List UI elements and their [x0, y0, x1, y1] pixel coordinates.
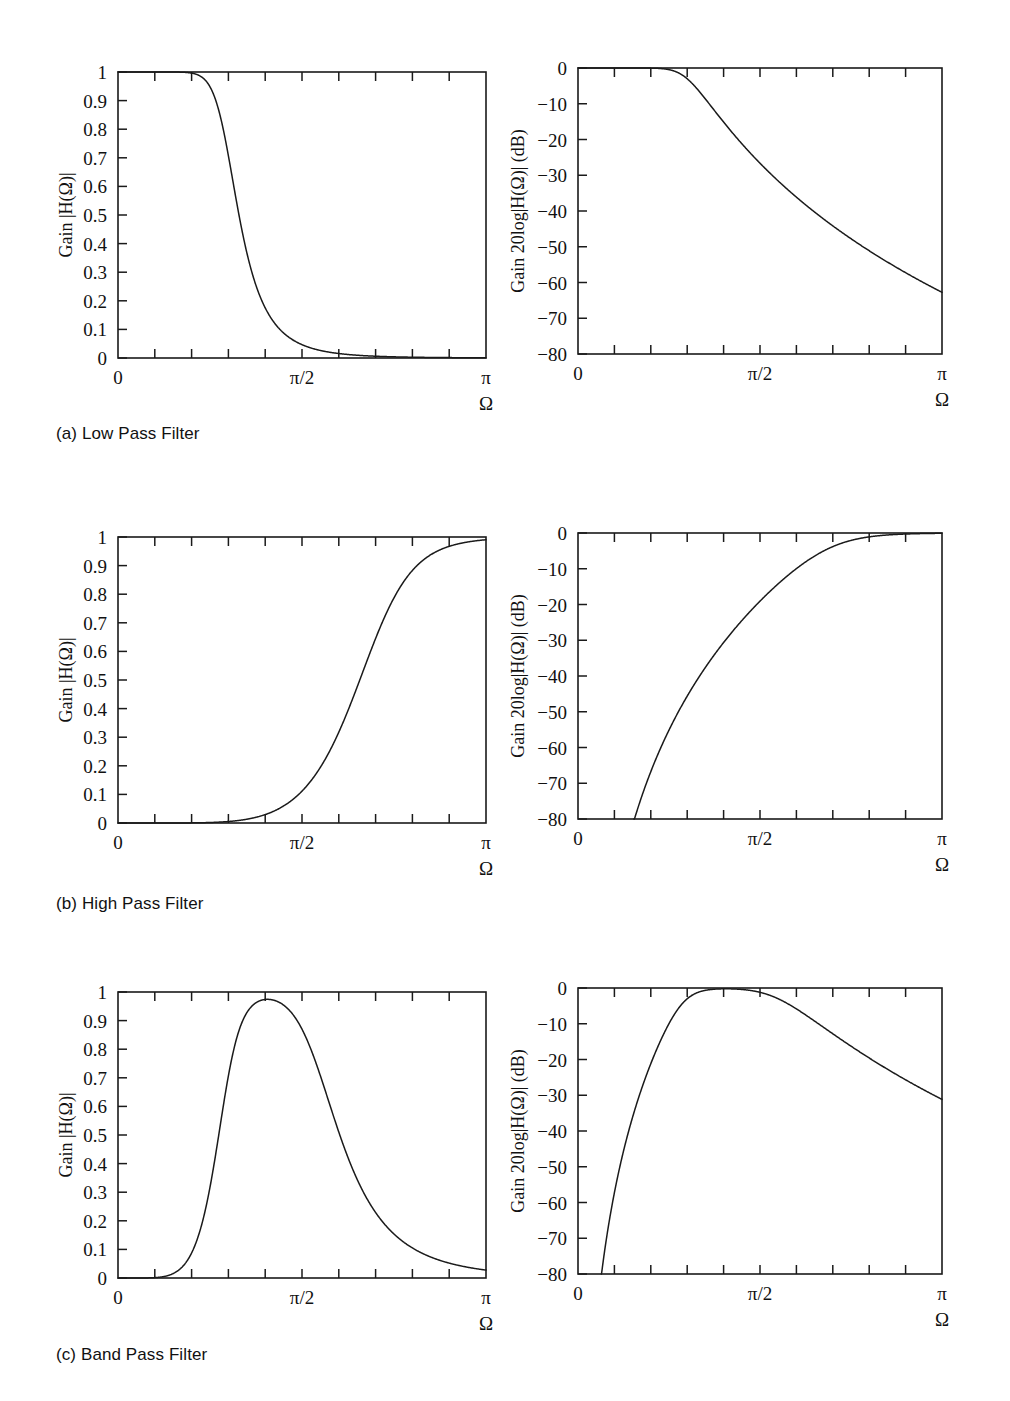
panel-hp-linear: 00.10.20.30.40.50.60.70.80.910π/2πΩGain … [46, 511, 496, 876]
x-tick-label: π [937, 1283, 947, 1304]
plot-bp-linear: 00.10.20.30.40.50.60.70.80.910π/2πΩGain … [46, 966, 496, 1331]
x-axis-label: Ω [479, 393, 493, 414]
x-tick-label: π [481, 1287, 491, 1308]
y-tick-label: 0.3 [83, 727, 107, 748]
y-tick-label: 0.3 [83, 262, 107, 283]
y-tick-label: −20 [537, 1050, 567, 1071]
y-tick-label: 0.4 [83, 699, 107, 720]
panel-hp-db: −80−70−60−50−40−30−20−1000π/2πΩGain 20lo… [506, 507, 966, 877]
x-tick-label: π [481, 832, 491, 853]
x-axis-label: Ω [935, 389, 949, 410]
y-tick-label: −30 [537, 1085, 567, 1106]
y-tick-label: −10 [537, 1014, 567, 1035]
x-tick-label: 0 [573, 828, 583, 849]
y-tick-label: 0.6 [83, 641, 107, 662]
x-tick-label: π/2 [290, 367, 314, 388]
y-tick-label: −60 [537, 1193, 567, 1214]
y-axis-label: Gain 20log|H(Ω)| (dB) [508, 1049, 529, 1213]
x-tick-label: 0 [113, 832, 123, 853]
y-tick-label: −80 [537, 1264, 567, 1285]
y-tick-label: −70 [537, 1228, 567, 1249]
response-curve [578, 68, 942, 292]
caption-high-pass: (b) High Pass Filter [56, 894, 203, 914]
panel-bp-linear: 00.10.20.30.40.50.60.70.80.910π/2πΩGain … [46, 966, 496, 1331]
filter-response-figure: 00.10.20.30.40.50.60.70.80.910π/2πΩGain … [0, 0, 1010, 1401]
plot-hp-linear: 00.10.20.30.40.50.60.70.80.910π/2πΩGain … [46, 511, 496, 876]
y-tick-label: −50 [537, 237, 567, 258]
y-tick-label: 0.5 [83, 205, 107, 226]
y-axis-label: Gain |H(Ω)| [56, 172, 77, 257]
x-tick-label: π/2 [748, 1283, 772, 1304]
y-tick-label: 1 [98, 982, 108, 1003]
caption-band-pass: (c) Band Pass Filter [56, 1345, 207, 1365]
x-tick-label: 0 [113, 367, 123, 388]
y-tick-label: 0.7 [83, 613, 107, 634]
plot-lp-db: −80−70−60−50−40−30−20−1000π/2πΩGain 20lo… [506, 42, 966, 412]
x-tick-label: π [937, 363, 947, 384]
y-tick-label: 0.3 [83, 1182, 107, 1203]
response-curve [118, 999, 486, 1278]
response-curve [118, 540, 486, 823]
plot-hp-db: −80−70−60−50−40−30−20−1000π/2πΩGain 20lo… [506, 507, 966, 877]
x-tick-label: 0 [573, 363, 583, 384]
y-tick-label: 0.7 [83, 1068, 107, 1089]
plot-lp-linear: 00.10.20.30.40.50.60.70.80.910π/2πΩGain … [46, 46, 496, 411]
plot-bp-db: −80−70−60−50−40−30−20−1000π/2πΩGain 20lo… [506, 962, 966, 1337]
y-tick-label: −60 [537, 273, 567, 294]
y-axis-label: Gain |H(Ω)| [56, 1092, 77, 1177]
x-tick-label: π/2 [748, 828, 772, 849]
y-tick-label: −30 [537, 630, 567, 651]
y-tick-label: 0.4 [83, 1154, 107, 1175]
y-tick-label: 0 [98, 1268, 108, 1289]
y-tick-label: 0.2 [83, 756, 107, 777]
x-tick-label: 0 [113, 1287, 123, 1308]
y-tick-label: 0.9 [83, 91, 107, 112]
y-tick-label: 0.2 [83, 1211, 107, 1232]
y-tick-label: 0 [558, 523, 568, 544]
y-tick-label: 0.8 [83, 1039, 107, 1060]
panel-bp-db: −80−70−60−50−40−30−20−1000π/2πΩGain 20lo… [506, 962, 966, 1337]
x-tick-label: π/2 [290, 832, 314, 853]
y-tick-label: 0.1 [83, 784, 107, 805]
y-tick-label: −40 [537, 666, 567, 687]
y-tick-label: 0 [98, 348, 108, 369]
y-axis-label: Gain 20log|H(Ω)| (dB) [508, 594, 529, 758]
y-tick-label: 0.6 [83, 1096, 107, 1117]
y-tick-label: 0.5 [83, 1125, 107, 1146]
response-curve [634, 533, 942, 819]
caption-low-pass: (a) Low Pass Filter [56, 424, 200, 444]
panel-lp-db: −80−70−60−50−40−30−20−1000π/2πΩGain 20lo… [506, 42, 966, 412]
x-axis-label: Ω [479, 858, 493, 879]
y-tick-label: 1 [98, 62, 108, 83]
y-tick-label: −20 [537, 130, 567, 151]
y-axis-label: Gain |H(Ω)| [56, 637, 77, 722]
y-tick-label: 0.2 [83, 291, 107, 312]
y-tick-label: 0.6 [83, 176, 107, 197]
y-tick-label: −70 [537, 308, 567, 329]
response-curve [118, 72, 486, 358]
y-tick-label: −50 [537, 702, 567, 723]
y-tick-label: 0.8 [83, 584, 107, 605]
y-tick-label: 0.7 [83, 148, 107, 169]
y-tick-label: 0.1 [83, 1239, 107, 1260]
x-tick-label: π/2 [748, 363, 772, 384]
y-tick-label: 0 [558, 58, 568, 79]
y-tick-label: 1 [98, 527, 108, 548]
y-tick-label: −70 [537, 773, 567, 794]
y-tick-label: −60 [537, 738, 567, 759]
y-tick-label: 0 [558, 978, 568, 999]
x-tick-label: π [481, 367, 491, 388]
y-tick-label: −10 [537, 94, 567, 115]
y-tick-label: −20 [537, 595, 567, 616]
panel-lp-linear: 00.10.20.30.40.50.60.70.80.910π/2πΩGain … [46, 46, 496, 411]
y-tick-label: −80 [537, 809, 567, 830]
y-tick-label: 0 [98, 813, 108, 834]
x-tick-label: π/2 [290, 1287, 314, 1308]
x-tick-label: 0 [573, 1283, 583, 1304]
y-tick-label: 0.9 [83, 1011, 107, 1032]
y-tick-label: −50 [537, 1157, 567, 1178]
x-axis-label: Ω [935, 1309, 949, 1330]
y-tick-label: 0.4 [83, 234, 107, 255]
y-tick-label: −80 [537, 344, 567, 365]
x-axis-label: Ω [935, 854, 949, 875]
